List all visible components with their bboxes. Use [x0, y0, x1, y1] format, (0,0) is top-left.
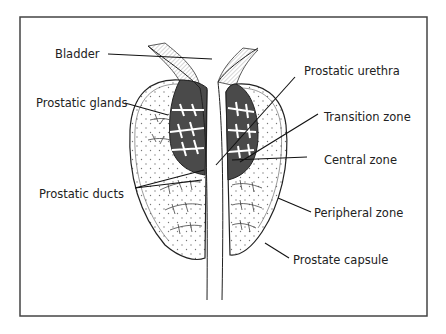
label-transition-zone: Transition zone [323, 110, 411, 124]
prostate-diagram: Bladder Prostatic glands Prostatic ducts… [0, 0, 446, 334]
label-central-zone: Central zone [324, 153, 397, 167]
label-bladder: Bladder [55, 47, 100, 61]
label-prostatic-ducts: Prostatic ducts [39, 187, 124, 201]
label-prostatic-urethra: Prostatic urethra [304, 64, 400, 78]
label-prostatic-glands: Prostatic glands [36, 96, 128, 110]
label-prostate-capsule: Prostate capsule [293, 253, 388, 267]
label-peripheral-zone: Peripheral zone [314, 206, 403, 220]
